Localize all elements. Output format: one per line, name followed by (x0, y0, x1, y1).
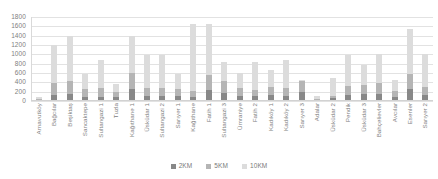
bar-segment-10km[interactable] (392, 80, 398, 91)
bar-segment-5km[interactable] (268, 87, 274, 95)
legend-item-10km[interactable]: 10KM (242, 163, 267, 170)
bar-segment-5km[interactable] (237, 88, 243, 96)
bar-segment-10km[interactable] (407, 29, 413, 75)
bar-segment-10km[interactable] (175, 74, 181, 89)
bar-segment-5km[interactable] (221, 81, 227, 93)
bar-column[interactable] (232, 17, 247, 101)
bar-stack[interactable] (361, 65, 367, 101)
bar-segment-5km[interactable] (144, 88, 150, 96)
bar-column[interactable] (402, 17, 417, 101)
bar-segment-10km[interactable] (113, 84, 119, 92)
bar-segment-5km[interactable] (175, 89, 181, 96)
bar-segment-10km[interactable] (129, 36, 135, 73)
bar-column[interactable] (77, 17, 92, 101)
bar-column[interactable] (139, 17, 154, 101)
bar-stack[interactable] (67, 36, 73, 101)
bar-stack[interactable] (330, 78, 336, 101)
bar-stack[interactable] (129, 36, 135, 101)
bar-stack[interactable] (268, 70, 274, 101)
bar-stack[interactable] (252, 62, 258, 101)
bar-segment-5km[interactable] (422, 87, 428, 95)
bar-segment-10km[interactable] (144, 55, 150, 88)
bar-segment-10km[interactable] (82, 74, 88, 89)
bar-column[interactable] (46, 17, 61, 101)
bar-segment-5km[interactable] (376, 83, 382, 94)
bar-column[interactable] (108, 17, 123, 101)
bar-stack[interactable] (392, 80, 398, 101)
bar-column[interactable] (155, 17, 170, 101)
bar-column[interactable] (418, 17, 433, 101)
bar-column[interactable] (186, 17, 201, 101)
y-axis-tick-label: 1600 (11, 23, 26, 30)
bar-column[interactable] (340, 17, 355, 101)
bar-segment-5km[interactable] (345, 86, 351, 95)
bar-column[interactable] (294, 17, 309, 101)
bar-column[interactable] (170, 17, 185, 101)
bar-segment-10km[interactable] (345, 55, 351, 85)
bar-segment-5km[interactable] (361, 85, 367, 95)
bar-segment-5km[interactable] (51, 83, 57, 95)
bar-column[interactable] (62, 17, 77, 101)
bar-column[interactable] (387, 17, 402, 101)
bar-column[interactable] (356, 17, 371, 101)
bar-segment-10km[interactable] (51, 45, 57, 83)
bar-segment-5km[interactable] (129, 73, 135, 89)
bar-segment-10km[interactable] (330, 78, 336, 96)
bar-stack[interactable] (283, 60, 289, 101)
bar-column[interactable] (31, 17, 46, 101)
x-axis-tick: Adalar (309, 101, 324, 158)
bar-segment-5km[interactable] (283, 88, 289, 96)
bar-segment-10km[interactable] (159, 55, 165, 88)
bar-stack[interactable] (144, 55, 150, 101)
bar-column[interactable] (217, 17, 232, 101)
bar-segment-10km[interactable] (206, 24, 212, 75)
bar-stack[interactable] (113, 84, 119, 101)
bar-segment-10km[interactable] (268, 70, 274, 87)
bar-stack[interactable] (376, 54, 382, 101)
bar-segment-5km[interactable] (407, 74, 413, 89)
bar-segment-10km[interactable] (67, 36, 73, 81)
bar-segment-10km[interactable] (361, 65, 367, 85)
x-axis-tick: Beşiktaş (62, 101, 77, 158)
bar-column[interactable] (263, 17, 278, 101)
bar-segment-10km[interactable] (221, 62, 227, 81)
y-axis-tick-label: 200 (15, 88, 26, 95)
bar-segment-10km[interactable] (422, 54, 428, 86)
bar-column[interactable] (201, 17, 216, 101)
bar-column[interactable] (279, 17, 294, 101)
bar-stack[interactable] (98, 60, 104, 101)
bar-segment-5km[interactable] (67, 81, 73, 94)
bar-stack[interactable] (206, 24, 212, 101)
bar-stack[interactable] (51, 45, 57, 101)
bar-stack[interactable] (299, 80, 305, 101)
bar-column[interactable] (325, 17, 340, 101)
bar-stack[interactable] (237, 73, 243, 101)
x-axis-tick: Sancaktepe (77, 101, 92, 158)
bar-segment-10km[interactable] (190, 24, 196, 91)
bar-segment-10km[interactable] (252, 62, 258, 90)
bar-stack[interactable] (190, 24, 196, 101)
bar-stack[interactable] (407, 29, 413, 101)
legend-item-2km[interactable]: 2KM (171, 163, 193, 170)
bar-column[interactable] (93, 17, 108, 101)
bar-column[interactable] (124, 17, 139, 101)
bar-stack[interactable] (82, 74, 88, 101)
bar-segment-10km[interactable] (283, 60, 289, 88)
bar-segment-5km[interactable] (98, 88, 104, 96)
bar-stack[interactable] (221, 62, 227, 101)
bar-segment-5km[interactable] (159, 88, 165, 96)
bar-segment-5km[interactable] (299, 81, 305, 92)
bar-segment-10km[interactable] (376, 54, 382, 83)
bar-column[interactable] (309, 17, 324, 101)
bar-column[interactable] (248, 17, 263, 101)
bar-segment-10km[interactable] (237, 73, 243, 88)
bar-segment-5km[interactable] (82, 89, 88, 96)
bar-stack[interactable] (345, 55, 351, 101)
bar-segment-10km[interactable] (98, 60, 104, 88)
bar-segment-5km[interactable] (206, 75, 212, 90)
bar-stack[interactable] (422, 54, 428, 101)
bar-stack[interactable] (159, 55, 165, 101)
bar-stack[interactable] (175, 74, 181, 101)
legend-item-5km[interactable]: 5KM (206, 163, 228, 170)
bar-column[interactable] (371, 17, 386, 101)
